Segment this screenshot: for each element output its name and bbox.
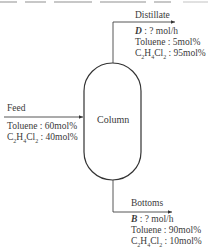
bottoms-flow-value: : ? mol/h <box>140 214 174 224</box>
feed-toluene: Toluene : 60mol% <box>7 121 77 132</box>
distillate-toluene: Toluene : 5mol% <box>135 37 200 48</box>
distillate-label: Distillate <box>135 10 170 21</box>
feed-dce-value: : 40mol% <box>41 132 78 142</box>
bottoms-label: Bottoms <box>131 198 163 209</box>
distillate-symbol: D <box>135 26 142 36</box>
distillate-flow-value: : ? mol/h <box>144 26 178 36</box>
feed-dce: C2H4Cl2 : 40mol% <box>7 132 78 147</box>
bottoms-toluene: Toluene : 90mol% <box>131 225 201 236</box>
column-label: Column <box>97 114 129 125</box>
distillate-dce: C2H4Cl2 : 95mol% <box>135 48 206 63</box>
bottoms-symbol: B <box>131 214 137 224</box>
distillate-flow: D : ? mol/h <box>135 26 178 37</box>
bottoms-dce-value: : 10mol% <box>165 236 202 246</box>
bottoms-flow: B : ? mol/h <box>131 214 174 225</box>
bottoms-dce: C2H4Cl2 : 10mol% <box>131 236 202 251</box>
distillate-dce-value: : 95mol% <box>169 48 206 58</box>
feed-label: Feed <box>7 103 25 114</box>
